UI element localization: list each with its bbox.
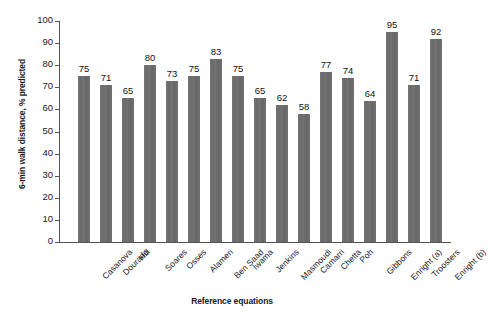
x-axis-category-label: Alameri — [207, 247, 234, 274]
bar: 75 — [78, 76, 90, 242]
x-axis-category-label: Poh — [357, 247, 375, 265]
bar-value-label: 62 — [277, 92, 288, 103]
bar: 64 — [364, 101, 376, 242]
bar: 65 — [122, 98, 134, 242]
y-axis-tick-label: 30 — [42, 169, 53, 180]
bar: 75 — [188, 76, 200, 242]
bar-value-label: 65 — [123, 85, 134, 96]
y-axis-tick-label: 50 — [42, 125, 53, 136]
bar-value-label: 75 — [79, 63, 90, 74]
bar-value-label: 77 — [321, 59, 332, 70]
x-axis-line — [59, 242, 451, 243]
bar-value-label: 64 — [365, 88, 376, 99]
y-axis-tick-mark — [55, 65, 60, 66]
x-axis-category-label: Osses — [184, 247, 208, 271]
bar: 58 — [298, 114, 310, 242]
bar: 71 — [408, 85, 420, 242]
y-axis-tick-mark — [55, 242, 60, 243]
y-axis-tick-mark — [55, 109, 60, 110]
x-axis-category-label: Jenkins — [273, 247, 300, 274]
bar-value-label: 74 — [343, 65, 354, 76]
bar-value-label: 75 — [233, 63, 244, 74]
bar: 62 — [276, 105, 288, 242]
y-axis-tick-label: 90 — [42, 36, 53, 47]
bar: 80 — [144, 65, 156, 242]
x-axis-title: Reference equations — [0, 296, 464, 306]
y-axis-tick-mark — [55, 198, 60, 199]
bar-value-label: 65 — [255, 85, 266, 96]
y-axis-tick-label: 0 — [48, 235, 53, 246]
y-axis-tick-mark — [55, 220, 60, 221]
bar-value-label: 71 — [409, 72, 420, 83]
bar-value-label: 80 — [145, 52, 156, 63]
y-axis-tick-label: 60 — [42, 102, 53, 113]
y-axis-tick-label: 80 — [42, 58, 53, 69]
y-axis-tick-label: 100 — [37, 14, 53, 25]
y-axis-title: 6-min walk distance, % predicted — [15, 2, 29, 246]
bar: 83 — [210, 59, 222, 242]
y-axis-tick-mark — [55, 21, 60, 22]
bar: 92 — [430, 39, 442, 242]
y-axis-tick-label: 70 — [42, 80, 53, 91]
bar-value-label: 75 — [189, 63, 200, 74]
y-axis-tick-mark — [55, 176, 60, 177]
bar-value-label: 73 — [167, 68, 178, 79]
bar: 77 — [320, 72, 332, 242]
y-axis-tick-mark — [55, 43, 60, 44]
x-axis-category-label: Gibbons — [384, 247, 413, 276]
bar: 74 — [342, 78, 354, 242]
bar-value-label: 83 — [211, 46, 222, 57]
bar: 75 — [232, 76, 244, 242]
y-axis-tick-label: 20 — [42, 191, 53, 202]
x-axis-category-label: Soares — [163, 247, 189, 273]
y-axis-tick-label: 10 — [42, 213, 53, 224]
bar: 73 — [166, 81, 178, 242]
y-axis-tick-mark — [55, 132, 60, 133]
y-axis-tick-mark — [55, 87, 60, 88]
bar: 95 — [386, 32, 398, 242]
bar-value-label: 58 — [299, 101, 310, 112]
bar: 65 — [254, 98, 266, 242]
bar: 71 — [100, 85, 112, 242]
bar-value-label: 95 — [387, 19, 398, 30]
plot-area: 0102030405060708090100 75716580737583756… — [59, 21, 451, 243]
y-axis-tick-label: 40 — [42, 147, 53, 158]
y-axis-tick-mark — [55, 154, 60, 155]
bar-value-label: 92 — [431, 26, 442, 37]
bar-value-label: 71 — [101, 72, 112, 83]
